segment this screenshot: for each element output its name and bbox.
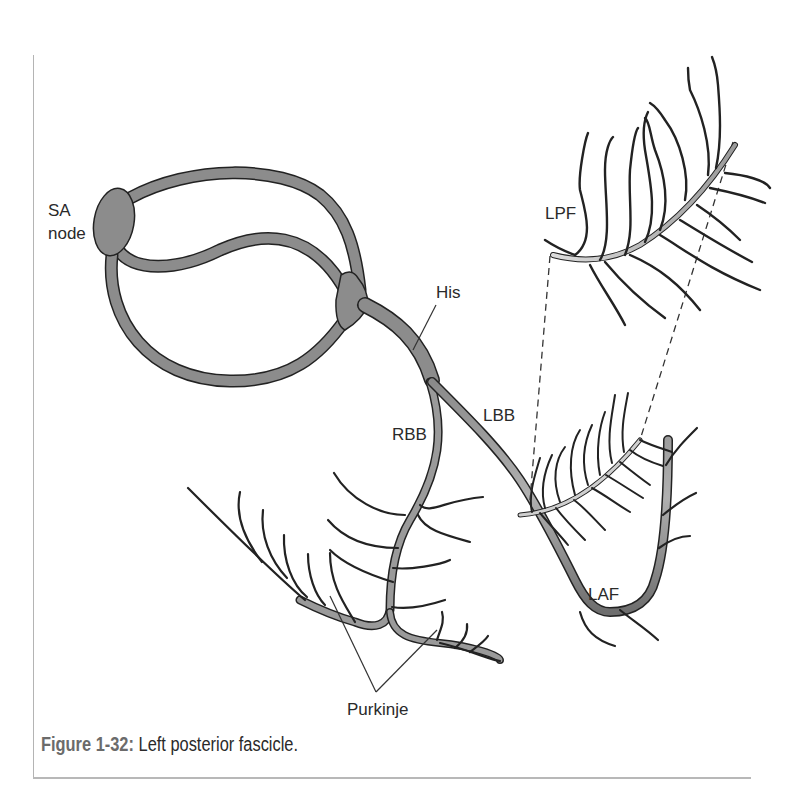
conduction-system-diagram: SA node His RBB LBB LPF LAF Purkinje xyxy=(0,0,809,785)
label-lpf: LPF xyxy=(545,204,576,223)
label-sa-node-line2: node xyxy=(48,224,86,243)
bundle-of-his xyxy=(365,305,432,380)
label-purkinje: Purkinje xyxy=(347,700,408,719)
label-sa-node-line1: SA xyxy=(48,201,71,220)
lpf-in-situ-fibers xyxy=(531,393,672,545)
figure-number: Figure 1-32: xyxy=(41,733,134,755)
label-laf: LAF xyxy=(588,585,619,604)
his-pointer-line xyxy=(413,305,436,350)
projection-dashed-lines xyxy=(530,142,733,500)
lpf-enlarged-fibers xyxy=(545,57,770,325)
rbb-purkinje-fibers xyxy=(188,473,500,661)
figure-caption: Figure 1-32: Left posterior fascicle. xyxy=(41,733,298,756)
internodal-tracts xyxy=(111,173,360,381)
label-lbb: LBB xyxy=(483,406,515,425)
figure-caption-text: Left posterior fascicle. xyxy=(139,733,299,755)
label-rbb: RBB xyxy=(392,425,427,444)
left-bundle-branch xyxy=(432,382,668,612)
label-his: His xyxy=(436,283,461,302)
